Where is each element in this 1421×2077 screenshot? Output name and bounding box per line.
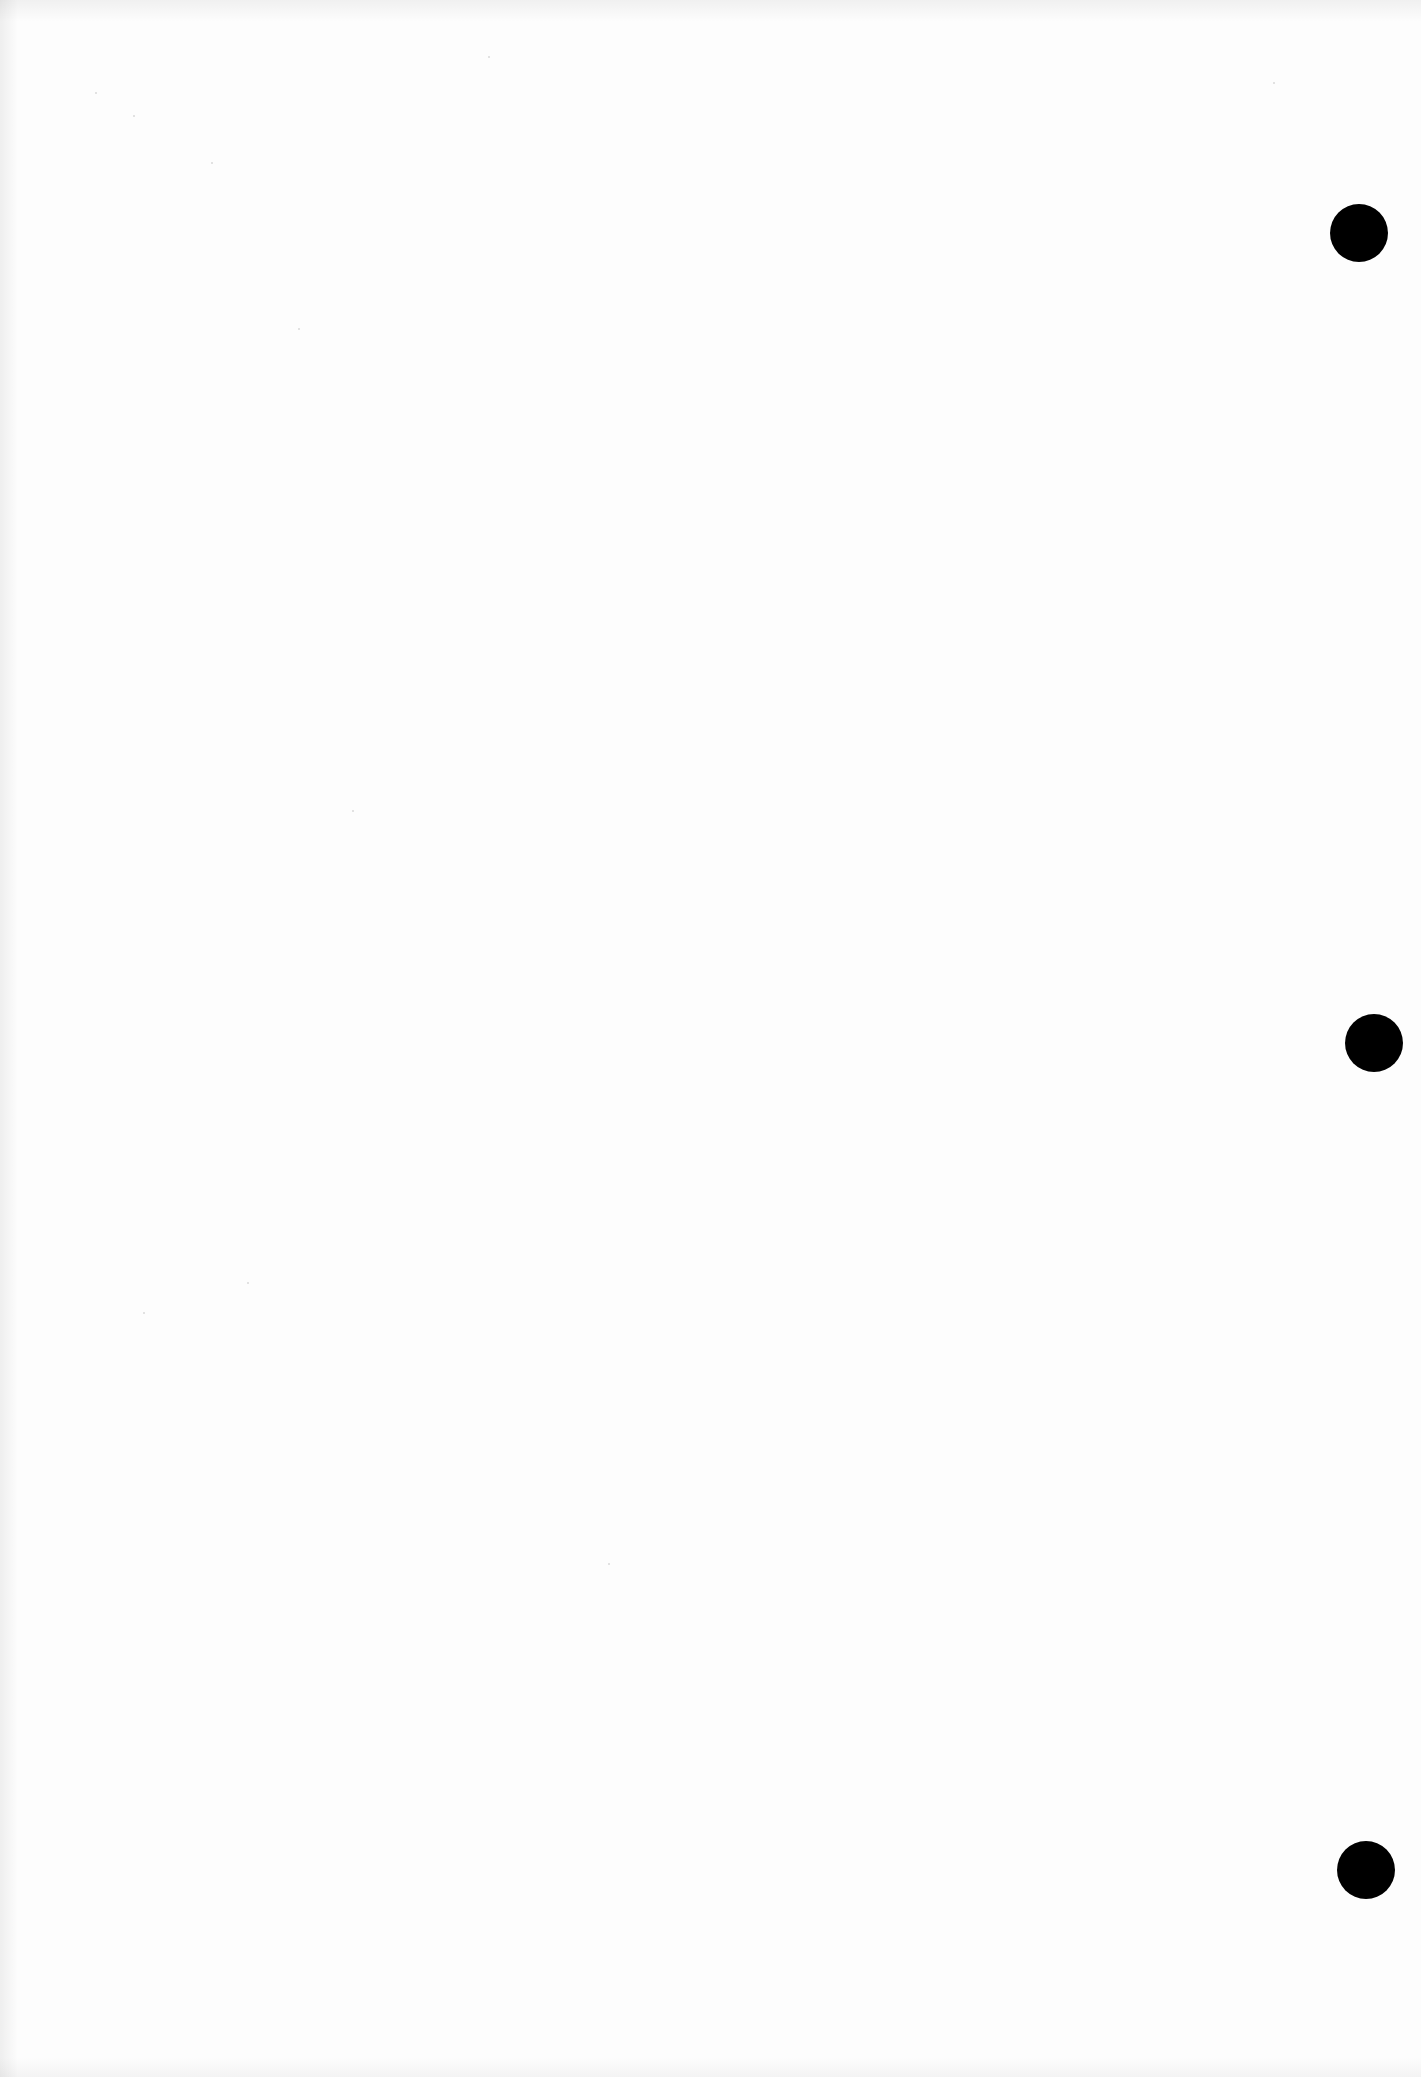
paper-speck bbox=[95, 92, 97, 94]
paper-speck bbox=[608, 1563, 610, 1565]
punch-hole-top bbox=[1330, 204, 1388, 262]
paper-speck bbox=[1273, 82, 1275, 84]
punch-hole-middle bbox=[1345, 1014, 1403, 1072]
paper-speck bbox=[352, 810, 354, 812]
paper-speck bbox=[247, 1282, 249, 1284]
paper-speck bbox=[211, 162, 213, 164]
paper-speck bbox=[488, 56, 490, 58]
paper-speck bbox=[298, 328, 300, 330]
paper-speck bbox=[133, 115, 135, 117]
paper-speck bbox=[143, 1312, 145, 1314]
blank-page bbox=[0, 0, 1421, 2077]
punch-hole-bottom bbox=[1337, 1841, 1395, 1899]
